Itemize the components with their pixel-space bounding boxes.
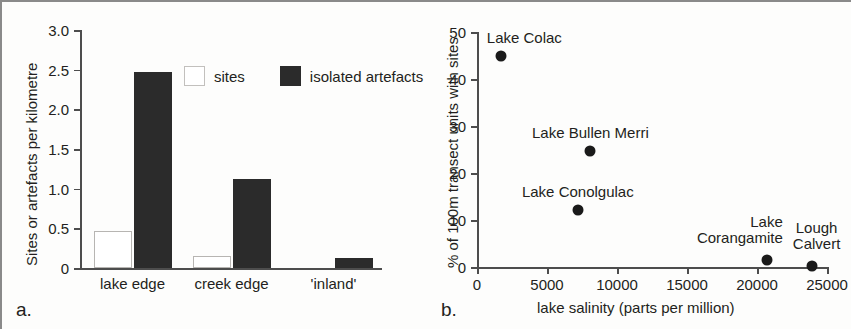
panel-b-plot-area: Lake ColacLake Bullen MerriLake Conolgul… (477, 32, 827, 267)
legend-label-isolated-artefacts: isolated artefacts (310, 69, 423, 84)
panel-b-y-tick-label: 0 (427, 260, 466, 275)
panel-a-category-label: 'inland' (264, 276, 404, 291)
data-point-lake-colac (495, 51, 506, 62)
panel-b-x-tick-label: 25000 (782, 277, 851, 292)
data-point-label: Lake Conolgulac (473, 184, 683, 200)
bar-sites-creek-edge (193, 256, 231, 268)
data-point-lake-corangamite (761, 255, 772, 266)
bar-isolated-artefacts-lake-edge (134, 72, 172, 268)
panel-b-y-tick-label: 50 (427, 25, 466, 40)
panel-a-y-tick-label: 3.0 (2, 23, 69, 38)
panel-b-x-tick (687, 269, 689, 274)
data-point-lake-bullen-merri (585, 145, 596, 156)
panel-b-y-tick-label: 30 (427, 119, 466, 134)
panel-b-scatter-chart: % of 100m transect units with sites 0102… (427, 2, 851, 329)
panel-b-x-tick (547, 269, 549, 274)
panel-b-x-axis-title: lake salinity (parts per million) (537, 300, 735, 315)
panel-b-letter: b. (441, 300, 457, 319)
panel-b-x-tick (827, 269, 829, 274)
data-point-lough-calvert (806, 261, 817, 272)
legend-swatch-isolated-artefacts (280, 66, 301, 86)
legend-swatch-sites (184, 66, 205, 86)
panel-b-y-tick-label: 20 (427, 166, 466, 181)
panel-a-y-tick-label: 2.5 (2, 63, 69, 78)
legend-label-sites: sites (214, 69, 245, 84)
panel-b-x-tick (757, 269, 759, 274)
panel-b-x-tick (617, 269, 619, 274)
data-point-label: LoughCalvert (712, 220, 851, 251)
panel-b-x-axis-line (477, 267, 829, 269)
bar-isolated-artefacts--inland- (335, 258, 373, 268)
panel-a-y-tick (74, 268, 80, 270)
bar-isolated-artefacts-creek-edge (233, 179, 271, 268)
panel-a-y-tick-label: 1.0 (2, 182, 69, 197)
panel-a-letter: a. (16, 300, 32, 319)
data-point-label: Lake Bullen Merri (485, 125, 695, 141)
figure-container: Sites or artefacts per kilometre 00.51.0… (0, 0, 851, 329)
bar-sites-lake-edge (94, 231, 132, 268)
panel-b-y-tick-label: 10 (427, 213, 466, 228)
panel-a-bar-chart: Sites or artefacts per kilometre 00.51.0… (2, 2, 427, 329)
data-point-label: Lake Colac (487, 30, 697, 46)
panel-a-y-tick-label: 1.5 (2, 142, 69, 157)
panel-b-y-tick-label: 40 (427, 72, 466, 87)
panel-a-y-tick-label: 0 (2, 261, 69, 276)
panel-a-legend: sites isolated artefacts (184, 66, 423, 86)
panel-a-x-axis-line (80, 268, 382, 270)
panel-a-y-tick-label: 2.0 (2, 102, 69, 117)
panel-a-y-tick-label: 0.5 (2, 221, 69, 236)
panel-b-data-points: Lake ColacLake Bullen MerriLake Conolgul… (477, 32, 827, 267)
panel-b-x-tick (477, 269, 479, 274)
